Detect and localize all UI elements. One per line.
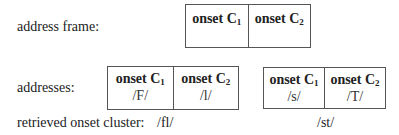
address-cell-onset-c1: onset C1 /F/ — [108, 67, 173, 109]
addresses-label: addresses: — [17, 80, 75, 96]
address-cell-header: onset C2 — [174, 71, 239, 87]
address-cell-value: /s/ — [264, 88, 324, 106]
address-cell-value: /T/ — [325, 88, 385, 106]
address-cell-onset-c1: onset C1 /s/ — [264, 68, 324, 108]
address-cell-value: /l/ — [174, 87, 239, 105]
address-cell-header: onset C2 — [325, 72, 385, 88]
address-cell-onset-c2: onset C2 /l/ — [173, 67, 239, 109]
frame-cell-header: onset C1 — [192, 11, 241, 26]
address-box-st: onset C1 /s/ onset C2 /T/ — [263, 67, 386, 109]
retrieved-cluster-st: /st/ — [317, 115, 334, 131]
address-cell-header: onset C1 — [108, 71, 173, 87]
frame-cell-onset-c2: onset C2 — [248, 5, 311, 47]
retrieved-cluster-label: retrieved onset cluster: — [17, 115, 145, 131]
frame-cell-header: onset C2 — [255, 11, 304, 26]
address-frame-label: address frame: — [17, 19, 99, 35]
address-cell-value: /F/ — [108, 87, 173, 105]
address-frame-box: onset C1 onset C2 — [185, 4, 311, 48]
retrieved-cluster-fl: /fl/ — [157, 115, 173, 131]
address-cell-header: onset C1 — [264, 72, 324, 88]
frame-cell-onset-c1: onset C1 — [186, 5, 248, 47]
address-box-fl: onset C1 /F/ onset C2 /l/ — [107, 66, 239, 110]
address-cell-onset-c2: onset C2 /T/ — [324, 68, 385, 108]
